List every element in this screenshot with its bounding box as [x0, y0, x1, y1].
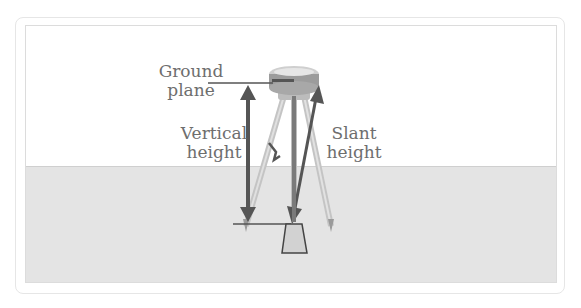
- vertical-height-label-line2: height: [174, 143, 254, 162]
- slant-height-label-line2: height: [323, 143, 385, 162]
- slant-height-label: Slant height: [323, 124, 385, 162]
- gnss-receiver-icon: [269, 66, 319, 95]
- tripod-scene: [26, 26, 557, 283]
- slant-height-label-line1: Slant: [323, 124, 385, 143]
- ground-plane-label-line1: Ground: [151, 62, 231, 81]
- ground-plane-label-line2: plane: [151, 81, 231, 100]
- ground-plane-label: Ground plane: [151, 62, 231, 100]
- vertical-height-label-line1: Vertical: [174, 124, 254, 143]
- vertical-height-label: Vertical height: [174, 124, 254, 162]
- diagram-panel: Ground plane Vertical height Slant heigh…: [25, 25, 557, 283]
- survey-mark-icon: [282, 224, 307, 253]
